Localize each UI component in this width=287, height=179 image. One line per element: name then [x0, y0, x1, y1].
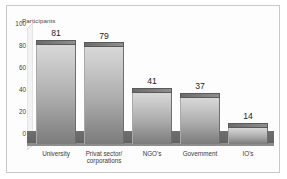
y-tick-60: 60 — [4, 64, 26, 71]
chart-screenshot: Participants 100 80 60 40 20 0 81 79 41 … — [0, 0, 287, 179]
bar-private-sector — [84, 42, 124, 144]
y-tick-100: 100 — [4, 20, 26, 27]
bar-ngos — [132, 88, 172, 144]
x-label-ios: IO's — [226, 150, 270, 157]
x-label-ngos: NGO's — [128, 150, 176, 157]
bar-value-label-private-sector: 79 — [84, 31, 124, 41]
bar-front-face — [132, 93, 172, 144]
y-axis: 100 80 60 40 20 0 — [2, 0, 26, 179]
bar-university — [36, 40, 76, 144]
x-label-private-sector: Privat sector/ corporations — [80, 150, 128, 165]
bar-value-label-ios: 14 — [228, 111, 268, 121]
bar-value-label-ngos: 41 — [132, 76, 172, 86]
bar-front-face — [84, 47, 124, 144]
bar-value-label-government: 37 — [180, 81, 220, 91]
y-tick-20: 20 — [4, 108, 26, 115]
x-label-university: University — [32, 150, 80, 157]
bar-front-face — [36, 45, 76, 144]
bar-front-face — [228, 128, 268, 144]
x-label-government: Government — [174, 150, 226, 157]
y-tick-80: 80 — [4, 42, 26, 49]
bar-value-label-university: 81 — [36, 28, 76, 38]
y-tick-0: 0 — [4, 130, 26, 137]
bar-ios — [228, 123, 268, 144]
bar-government — [180, 93, 220, 144]
bar-front-face — [180, 98, 220, 144]
y-tick-40: 40 — [4, 86, 26, 93]
